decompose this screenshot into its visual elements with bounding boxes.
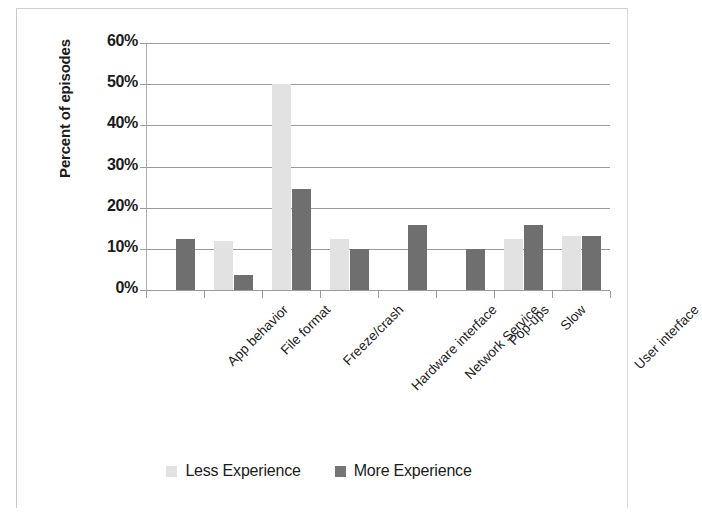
legend-swatch-icon [166, 466, 177, 477]
legend-item[interactable]: More Experience [335, 462, 472, 480]
x-axis-category-label: User interface [632, 302, 702, 372]
x-axis-tick-mark [146, 291, 147, 298]
bar [330, 239, 349, 290]
bar [582, 236, 601, 290]
legend-swatch-icon [335, 466, 346, 477]
bar [176, 239, 195, 290]
x-axis-category-label: Slow [558, 302, 589, 333]
bar [292, 189, 311, 290]
bar [466, 249, 485, 290]
gridline [146, 167, 610, 168]
bar [562, 236, 581, 290]
bar [234, 275, 253, 290]
gridline [146, 208, 610, 209]
legend-label: Less Experience [185, 462, 300, 480]
plot-area [146, 43, 610, 290]
bar [214, 241, 233, 290]
x-axis-tick-mark [494, 291, 495, 298]
x-axis-tick-mark [378, 291, 379, 298]
bar [408, 225, 427, 290]
page-frame-left-rule [16, 8, 17, 508]
x-axis-tick-mark [204, 291, 205, 298]
legend-item[interactable]: Less Experience [166, 462, 300, 480]
y-axis-tick-label: 0% [68, 279, 138, 297]
bar [504, 239, 523, 290]
y-axis-tick-label: 60% [68, 32, 138, 50]
x-axis-tick-mark [436, 291, 437, 298]
legend-label: More Experience [354, 462, 472, 480]
gridline [146, 43, 610, 44]
x-axis-tick-mark [262, 291, 263, 298]
y-axis-tick-label: 10% [68, 238, 138, 256]
gridline [146, 125, 610, 126]
x-axis-category-label: Freeze/crash [340, 302, 406, 368]
bar [272, 84, 291, 290]
y-axis-tick-label: 20% [68, 197, 138, 215]
x-axis-tick-mark [320, 291, 321, 298]
bar [350, 249, 369, 290]
y-axis-tick-label: 40% [68, 114, 138, 132]
gridline [146, 84, 610, 85]
x-axis-tick-mark [610, 291, 611, 298]
y-axis-tick-label: 30% [68, 156, 138, 174]
page-frame-top-rule [16, 8, 628, 9]
x-axis-category-label: App behavior [224, 302, 291, 369]
bar [524, 225, 543, 290]
y-axis-tick-label: 50% [68, 73, 138, 91]
chart-legend: Less ExperienceMore Experience [0, 462, 638, 480]
x-axis-tick-mark [552, 291, 553, 298]
page-frame-right-rule [627, 8, 628, 508]
